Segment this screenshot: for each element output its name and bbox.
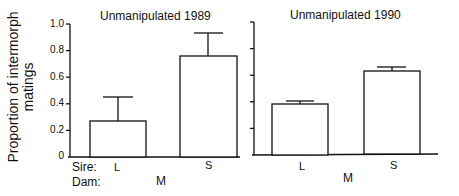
panel-1990-sire-S: S (390, 159, 397, 171)
sire-row-label: Sire: (72, 160, 97, 174)
panel-1990-dam-M: M (343, 171, 353, 185)
y-tick-1.0: 1.0 (42, 18, 64, 29)
y-tick-0: 0 (42, 150, 64, 161)
bar-1990-L (272, 104, 328, 155)
y-tick-0.2: 0.2 (42, 124, 64, 135)
y-tick-0.8: 0.8 (42, 44, 64, 55)
bar-1989-L (90, 121, 146, 157)
panel-1989-title: Unmanipulated 1989 (100, 9, 211, 23)
y-tick-0.6: 0.6 (42, 71, 64, 82)
panel-1989-sire-S: S (205, 159, 212, 171)
panel-1989-bars (90, 33, 237, 157)
dam-row-label: Dam: (72, 175, 101, 189)
panel-1990-bars (272, 67, 420, 155)
y-axis-label: Proportion of intermorph matings (6, 2, 36, 172)
panel-1990-title: Unmanipulated 1990 (290, 8, 401, 22)
panel-1989-dam-M: M (156, 174, 166, 188)
panel-1990-sire-L: L (299, 160, 305, 172)
bar-1990-S (364, 71, 420, 154)
y-tick-0.4: 0.4 (42, 97, 64, 108)
bar-1989-S (180, 56, 237, 157)
panel-1989-sire-L: L (114, 161, 120, 173)
